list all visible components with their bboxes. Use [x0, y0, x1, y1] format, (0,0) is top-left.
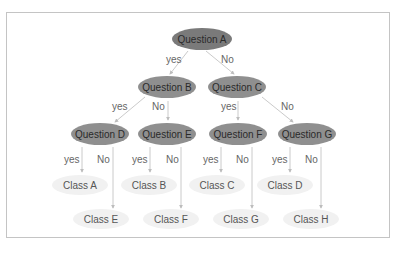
- edge-label-b-yes: yes: [112, 101, 128, 112]
- node-question-g: Question G: [278, 123, 336, 145]
- edge-label-a-yes: yes: [166, 54, 182, 65]
- edge-label-e-yes: yes: [132, 154, 148, 165]
- edge-label-g-yes: yes: [272, 154, 288, 165]
- edge-label-f-no: No: [236, 154, 249, 165]
- node-question-a: Question A: [172, 28, 232, 50]
- leaf-class-f: Class F: [143, 209, 199, 229]
- node-question-f: Question F: [209, 123, 267, 145]
- leaf-class-d: Class D: [257, 175, 313, 195]
- node-question-b: Question B: [138, 76, 196, 98]
- edge-label-f-yes: yes: [203, 154, 219, 165]
- edge-label-d-no: No: [97, 154, 110, 165]
- edge-label-c-no: No: [281, 101, 294, 112]
- leaf-class-a: Class A: [52, 175, 108, 195]
- leaf-class-b: Class B: [121, 175, 177, 195]
- node-question-e: Question E: [138, 123, 196, 145]
- edge-label-g-no: No: [305, 154, 318, 165]
- node-question-d: Question D: [71, 123, 129, 145]
- edge-label-d-yes: yes: [64, 154, 80, 165]
- leaf-class-g: Class G: [213, 209, 269, 229]
- edge-label-c-yes: yes: [221, 101, 237, 112]
- edge-label-a-no: No: [221, 54, 234, 65]
- leaf-class-c: Class C: [189, 175, 245, 195]
- node-question-c: Question C: [208, 76, 266, 98]
- edge-label-e-no: No: [166, 154, 179, 165]
- edge-label-b-no: No: [152, 101, 165, 112]
- leaf-class-e: Class E: [73, 209, 129, 229]
- leaf-class-h: Class H: [283, 209, 339, 229]
